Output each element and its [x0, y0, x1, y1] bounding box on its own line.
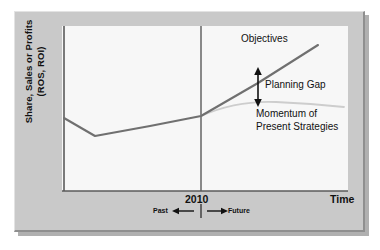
annotation-momentum: Momentum of Present Strategies	[256, 108, 352, 133]
annotation-planning-gap: Planning Gap	[265, 79, 326, 90]
y-axis-label-line1: Share, Sales or Profits	[23, 20, 34, 124]
double-headed-arrow-icon	[254, 67, 262, 107]
timeline-arrows	[172, 204, 228, 218]
chart-figure: Share, Sales or Profits (ROS, ROI) Objec	[0, 0, 380, 250]
y-axis-label-line2: (ROS, ROI)	[34, 46, 45, 96]
y-axis-label: Share, Sales or Profits (ROS, ROI)	[23, 2, 46, 142]
x-axis-tick-label-2010: 2010	[185, 193, 208, 205]
timeline-future-label: Future	[228, 207, 250, 214]
timeline-past-label: Past	[153, 207, 168, 214]
x-axis-label: Time	[330, 193, 354, 205]
annotation-objectives: Objectives	[241, 33, 288, 44]
